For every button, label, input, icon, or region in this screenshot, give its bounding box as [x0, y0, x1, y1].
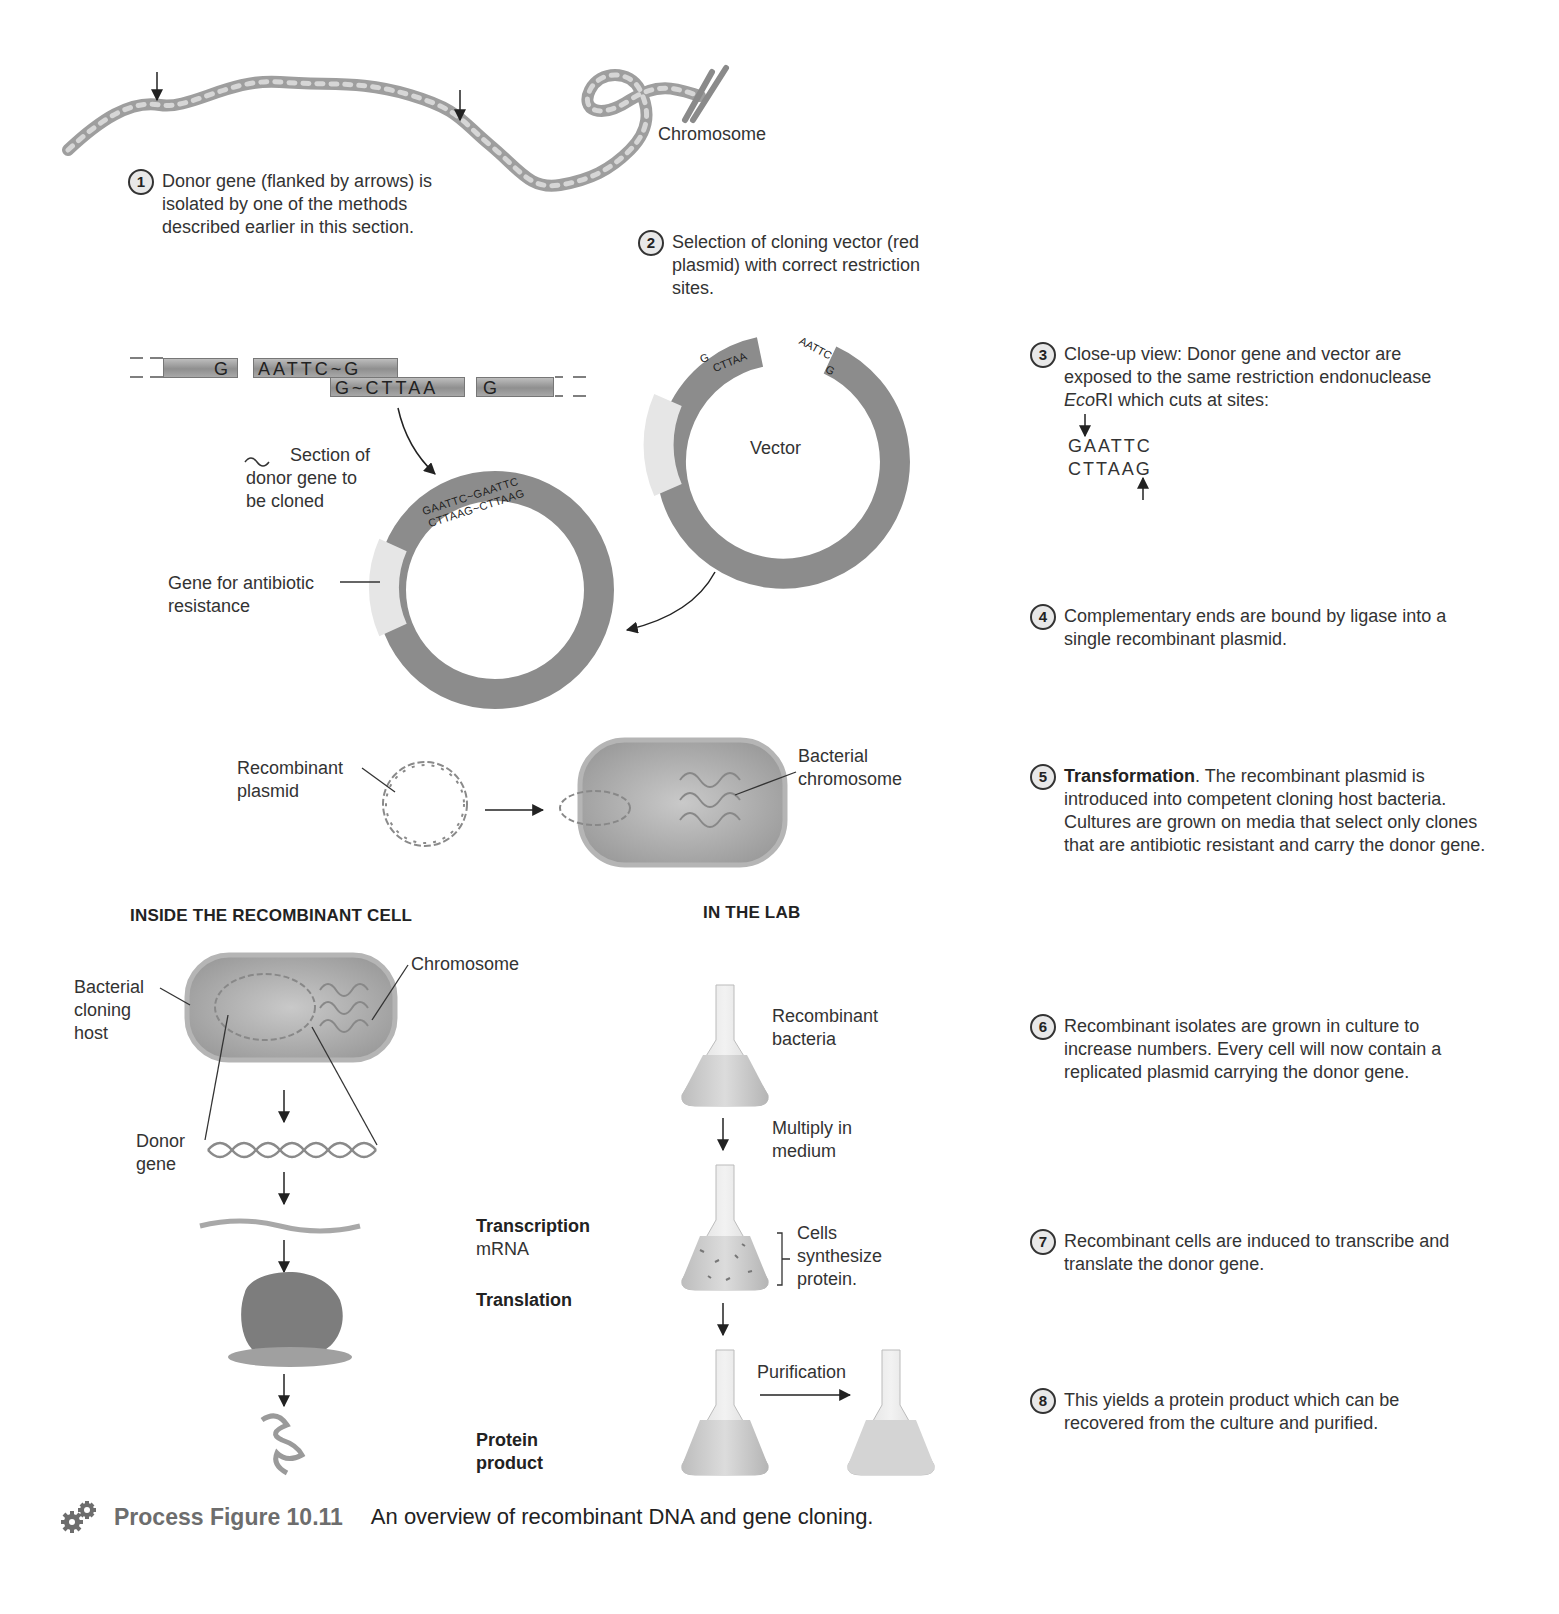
recombinant-plasmid-ring-icon	[384, 486, 599, 694]
donor-gene-helix-icon	[208, 1143, 376, 1157]
vector-plasmid-icon	[659, 352, 895, 574]
step-5-text: Transformation. The recombinant plasmid …	[1064, 765, 1490, 857]
heading-in-the-lab: IN THE LAB	[703, 903, 800, 923]
donor-gene-label: Donor gene	[136, 1130, 185, 1176]
antibiotic-resistance-label: Gene for antibiotic resistance	[168, 572, 314, 618]
step-number-5: 5	[1030, 764, 1056, 790]
vector-label: Vector	[750, 437, 801, 460]
multiply-label: Multiply in medium	[772, 1117, 852, 1163]
chromosome-cell-label: Chromosome	[411, 953, 519, 976]
recombinant-plasmid-label: Recombinant plasmid	[237, 757, 343, 803]
section-of-donor-gene-label: Section of donor gene to be cloned	[246, 444, 406, 513]
figure-label: Process Figure 10.11	[114, 1504, 343, 1531]
cloning-host-cell-icon	[187, 955, 395, 1060]
step-1-text: Donor gene (flanked by arrows) is isolat…	[162, 170, 488, 239]
step-3: 3 Close-up view: Donor gene and vector a…	[1030, 343, 1440, 412]
heading-inside-cell: INSIDE THE RECOMBINANT CELL	[130, 906, 412, 926]
step-2-text: Selection of cloning vector (red plasmid…	[672, 231, 938, 300]
step-6: 6 Recombinant isolates are grown in cult…	[1030, 1015, 1470, 1084]
step-8: 8 This yields a protein product which ca…	[1030, 1389, 1450, 1435]
flask-recombinant-bacteria-icon	[682, 985, 768, 1106]
step-8-text: This yields a protein product which can …	[1064, 1389, 1450, 1435]
ecori-site: GAATTC CTTAAG	[1068, 435, 1152, 481]
mrna-strand-icon	[200, 1221, 360, 1231]
step-number-3: 3	[1030, 342, 1056, 368]
step-number-8: 8	[1030, 1388, 1056, 1414]
donor-fragment-right: G	[476, 377, 554, 397]
chromosome-label: Chromosome	[658, 123, 766, 146]
step-1: 1 Donor gene (flanked by arrows) is isol…	[128, 170, 488, 239]
donor-fragment-mid-top: AATTC~G	[253, 358, 398, 378]
cloning-host-label: Bacterial cloning host	[74, 976, 144, 1045]
figure-caption-text: An overview of recombinant DNA and gene …	[371, 1504, 874, 1530]
step-5: 5 Transformation. The recombinant plasmi…	[1030, 765, 1490, 857]
ribosome-icon	[228, 1272, 352, 1367]
step-number-2: 2	[638, 230, 664, 256]
step-4: 4 Complementary ends are bound by ligase…	[1030, 605, 1470, 651]
recombinant-bacteria-label: Recombinant bacteria	[772, 1005, 878, 1051]
step-3-text: Close-up view: Donor gene and vector are…	[1064, 343, 1440, 412]
donor-fragment-mid-bottom: G~CTTAA	[330, 377, 465, 397]
step-number-4: 4	[1030, 604, 1056, 630]
step-7-text: Recombinant cells are induced to transcr…	[1064, 1230, 1470, 1276]
bacterial-chromosome-label: Bacterial chromosome	[798, 745, 902, 791]
flask-purified-icon	[848, 1350, 934, 1475]
step-number-7: 7	[1030, 1229, 1056, 1255]
step-4-text: Complementary ends are bound by ligase i…	[1064, 605, 1470, 651]
gears-icon	[60, 1500, 100, 1534]
cells-synthesize-label: Cells synthesize protein.	[797, 1222, 882, 1291]
step-6-text: Recombinant isolates are grown in cultur…	[1064, 1015, 1470, 1084]
protein-product-icon	[262, 1416, 302, 1473]
protein-product-label: Protein product	[476, 1429, 543, 1475]
step-number-1: 1	[128, 169, 154, 195]
donor-fragment-left: G	[163, 358, 238, 378]
flask-cells-synthesize-icon	[682, 1165, 768, 1290]
bracket-icon	[777, 1233, 790, 1285]
ecori-bottom-strand: CTTAAG	[1068, 458, 1152, 481]
step-number-6: 6	[1030, 1014, 1056, 1040]
figure-caption: Process Figure 10.11 An overview of reco…	[60, 1500, 874, 1534]
purification-label: Purification	[757, 1361, 846, 1384]
transcription-label: Transcription mRNA	[476, 1215, 590, 1261]
step-2: 2 Selection of cloning vector (red plasm…	[638, 231, 938, 300]
step-7: 7 Recombinant cells are induced to trans…	[1030, 1230, 1470, 1276]
translation-label: Translation	[476, 1289, 572, 1312]
flask-purification-before-icon	[682, 1350, 768, 1475]
bacterial-cell-icon	[560, 740, 785, 865]
ecori-top-strand: GAATTC	[1068, 435, 1152, 458]
arrow-vector-to-recombinant-icon	[627, 572, 715, 630]
small-plasmid-icon	[383, 762, 467, 846]
